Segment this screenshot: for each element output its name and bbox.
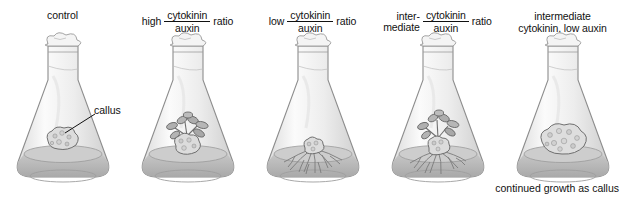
ratio-fraction: cytokinin auxin [423,10,469,33]
ratio-suffix: ratio [336,16,356,28]
panel-intermediate-ratio: inter- mediate cytokinin auxin ratio [375,0,500,200]
panel-low-cytokinin-auxin: low cytokinin auxin ratio [250,0,375,200]
panel-heading-intermediate-low-auxin: intermediate cytokinin, low auxin [500,10,625,34]
panel-high-cytokinin-auxin: high cytokinin auxin ratio [125,0,250,200]
cotton-plug-icon [420,33,456,46]
ratio-numerator: cytokinin [288,10,332,21]
ratio-denominator: auxin [432,23,461,34]
ratio-prefix-line1: inter- [383,11,420,22]
panel-heading-control: control [0,10,125,22]
ratio-suffix: ratio [213,16,233,28]
bottom-caption: continued growth as callus [495,182,619,194]
flask-low-cytokinin [254,36,372,184]
callus-mass [174,133,200,154]
heading-line-1: intermediate [500,10,625,22]
cotton-plug-icon [545,33,581,46]
callus-mass [304,137,324,154]
flask-body-group [267,42,359,182]
ratio-numerator: cytokinin [424,10,468,21]
flask-body-group [517,42,609,182]
panel-heading-high: high cytokinin auxin ratio [125,10,250,33]
ratio-prefix: low [269,16,284,28]
panel-intermediate-cytokinin-low-auxin: intermediate cytokinin, low auxin [500,0,625,200]
ratio-fraction: cytokinin auxin [164,10,210,33]
ratio-prefix: high [142,16,161,28]
cotton-plug-icon [170,33,206,46]
callus-annotation-label: callus [94,104,121,116]
cotton-plug-icon [45,33,81,46]
ratio-denominator: auxin [296,23,325,34]
panel-heading-low: low cytokinin auxin ratio [250,10,375,33]
ratio-prefix-line2: mediate [383,22,420,33]
flask-intermediate-ratio [379,36,497,184]
panel-control: control [0,0,125,200]
ratio-denominator: auxin [173,23,202,34]
flask-large-callus [504,36,622,184]
ratio-numerator: cytokinin [165,10,209,21]
ratio-fraction: cytokinin auxin [287,10,333,33]
flask-high-cytokinin [129,36,247,184]
ratio-suffix: ratio [472,16,492,28]
cotton-plug-icon [295,33,331,46]
callus-mass [428,136,450,155]
plant-tissue-culture-figure: control [0,0,625,200]
heading-line-2: cytokinin, low auxin [500,22,625,34]
panel-heading-intermediate: inter- mediate cytokinin auxin ratio [375,10,500,33]
heading-text: control [47,9,78,21]
ratio-prefix-wrapped: inter- mediate [383,11,420,32]
